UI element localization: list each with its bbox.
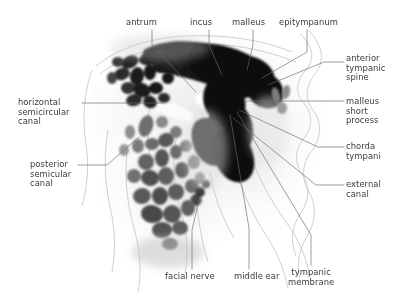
label-antrum-line: antrum [126, 18, 157, 28]
label-horizontal-semicircular-canal: horizontalsemicircularcanal [18, 98, 70, 127]
label-malleus-line: malleus [232, 18, 265, 28]
label-middle-ear-line: middle ear [234, 272, 280, 282]
label-posterior-semicular-canal: posteriorsemicularcanal [30, 160, 71, 189]
label-anterior-tympanic-spine: anteriortympanicspine [346, 54, 386, 83]
label-malleus: malleus [232, 18, 265, 28]
label-anterior-tympanic-spine-line: spine [346, 73, 386, 83]
label-middle-ear: middle ear [234, 272, 280, 282]
label-antrum: antrum [126, 18, 157, 28]
label-layer: antrumincusmalleusepitympanumanteriortym… [0, 0, 399, 301]
label-tympanic-membrane-line: membrane [288, 278, 334, 288]
label-malleus-short-process-line: process [346, 116, 379, 126]
label-tympanic-membrane: tympanicmembrane [288, 268, 334, 287]
anatomy-figure: antrumincusmalleusepitympanumanteriortym… [0, 0, 399, 301]
label-incus-line: incus [190, 18, 212, 28]
label-facial-nerve-line: facial nerve [165, 272, 215, 282]
label-epitympanum-line: epitympanum [279, 18, 338, 28]
label-epitympanum: epitympanum [279, 18, 338, 28]
label-malleus-short-process: malleusshortprocess [346, 97, 379, 126]
label-facial-nerve: facial nerve [165, 272, 215, 282]
label-external-canal-line: canal [346, 190, 381, 200]
label-incus: incus [190, 18, 212, 28]
label-posterior-semicular-canal-line: canal [30, 179, 71, 189]
label-chorda-tympani: chordatympani [346, 142, 381, 161]
label-horizontal-semicircular-canal-line: canal [18, 117, 70, 127]
label-external-canal: externalcanal [346, 180, 381, 199]
label-chorda-tympani-line: tympani [346, 152, 381, 162]
